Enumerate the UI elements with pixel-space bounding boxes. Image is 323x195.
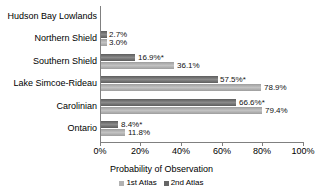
bar-2nd-atlas-ontario [101,121,118,128]
bar-group-northern-shield: 2.7% 3.0% [101,31,304,49]
x-axis-tick-labels: 0% 20% 40% 60% 80% 100% [100,146,304,158]
bar-1st-atlas-carolinian [101,107,262,114]
category-label-carolinian: Carolinian [1,101,97,111]
x-tick-label-20: 20% [131,146,149,156]
x-tick-label-0: 0% [93,146,106,156]
bar-group-hudson-bay-lowlands [101,9,304,27]
bar-label-1st-atlas-northern-shield: 3.0% [109,39,127,47]
bar-group-southern-shield: 16.9%* 36.1% [101,54,304,72]
legend-swatch-icon-1st-atlas [119,181,124,186]
legend-entry-1st-atlas: 1st Atlas [119,178,156,188]
plot-area: 2.7% 3.0% 16.9%* 36.1% 57.5%* 78.9% 66.6… [100,6,304,143]
legend-label-1st-atlas: 1st Atlas [126,178,156,188]
bar-group-lake-simcoe-rideau: 57.5%* 78.9% [101,76,304,94]
category-label-lake-simcoe-rideau: Lake Simcoe-Rideau [1,78,97,88]
bar-label-1st-atlas-carolinian: 79.4% [265,107,288,115]
bar-label-2nd-atlas-southern-shield: 16.9%* [138,54,164,62]
bar-1st-atlas-ontario [101,129,125,136]
category-label-hudson-bay-lowlands: Hudson Bay Lowlands [1,11,97,21]
x-axis-title: Probability of Observation [0,164,323,175]
legend-label-2nd-atlas: 2nd Atlas [171,178,204,188]
bar-label-1st-atlas-lake-simcoe-rideau: 78.9% [264,84,287,92]
category-label-ontario: Ontario [1,123,97,133]
bar-2nd-atlas-northern-shield [101,31,107,38]
bar-2nd-atlas-southern-shield [101,54,135,61]
bar-group-carolinian: 66.6%* 79.4% [101,99,304,117]
legend-entry-2nd-atlas: 2nd Atlas [164,178,204,188]
bar-1st-atlas-lake-simcoe-rideau [101,84,261,91]
bar-group-ontario: 8.4%* 11.8% [101,121,304,139]
x-tick-label-100: 100% [291,146,314,156]
bar-2nd-atlas-carolinian [101,99,236,106]
bar-2nd-atlas-lake-simcoe-rideau [101,76,218,83]
x-tick-label-60: 60% [213,146,231,156]
bar-1st-atlas-southern-shield [101,62,174,69]
category-label-southern-shield: Southern Shield [1,56,97,66]
legend-swatch-icon-2nd-atlas [164,181,169,186]
bar-label-2nd-atlas-carolinian: 66.6%* [239,99,265,107]
bar-label-1st-atlas-southern-shield: 36.1% [177,62,200,70]
category-label-northern-shield: Northern Shield [1,33,97,43]
bar-label-2nd-atlas-lake-simcoe-rideau: 57.5%* [220,76,246,84]
bar-chart: Hudson Bay Lowlands Northern Shield Sout… [0,0,323,195]
bar-label-1st-atlas-ontario: 11.8% [128,129,150,137]
x-tick-label-80: 80% [253,146,271,156]
y-axis-category-labels: Hudson Bay Lowlands Northern Shield Sout… [0,6,97,142]
chart-legend: 1st Atlas 2nd Atlas [0,178,323,188]
x-tick-label-40: 40% [172,146,190,156]
bar-1st-atlas-northern-shield [101,39,107,46]
